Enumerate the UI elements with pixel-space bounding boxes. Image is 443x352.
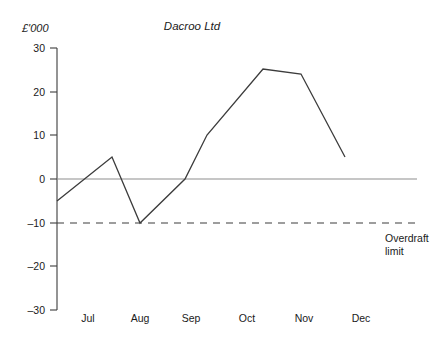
y-tick-label-20: 20 <box>33 86 45 98</box>
cashflow-chart: £'000 Dacroo Ltd 30 20 10 0 –10 –20 –30 <box>0 0 443 352</box>
y-tick-label-30: 30 <box>33 42 45 54</box>
y-tick-label-0: 0 <box>39 173 45 185</box>
x-tick-label-nov: Nov <box>295 312 314 324</box>
y-tick-label-10: 10 <box>33 129 45 141</box>
chart-svg: £'000 Dacroo Ltd 30 20 10 0 –10 –20 –30 <box>0 0 443 352</box>
chart-title: Dacroo Ltd <box>164 20 221 32</box>
y-tick-label-neg20: –20 <box>27 260 45 272</box>
y-tick-label-neg30: –30 <box>27 304 45 316</box>
x-tick-label-oct: Oct <box>239 312 255 324</box>
x-tick-label-aug: Aug <box>131 312 150 324</box>
x-tick-label-jul: Jul <box>81 312 94 324</box>
y-axis-unit-label: £'000 <box>21 22 49 34</box>
chart-background <box>0 0 443 352</box>
overdraft-limit-label-line2: limit <box>385 245 404 257</box>
x-tick-label-sep: Sep <box>182 312 201 324</box>
y-tick-label-neg10: –10 <box>27 217 45 229</box>
x-tick-label-dec: Dec <box>352 312 371 324</box>
overdraft-limit-label-line1: Overdraft <box>385 232 429 244</box>
